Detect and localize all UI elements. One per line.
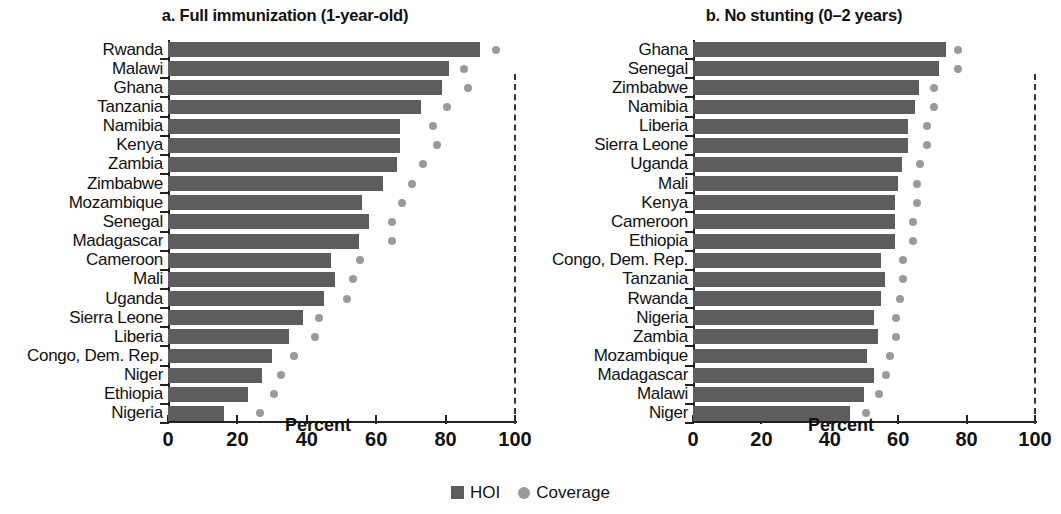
- y-tick-b-18: [685, 403, 694, 405]
- hoi-bar: [693, 253, 881, 268]
- panel-a-x-axis-title: Percent: [285, 415, 351, 436]
- coverage-dot: [913, 180, 921, 188]
- y-tick-b-5: [685, 154, 694, 156]
- category-label: Nigeria: [111, 403, 163, 423]
- panel-a-plot-area: 020406080100: [168, 40, 515, 423]
- y-tick-a-0: [160, 58, 169, 60]
- category-label: Zimbabwe: [612, 78, 688, 98]
- bar-row: [693, 291, 1035, 306]
- category-label: Malawi: [112, 59, 163, 79]
- y-tick-a-5: [160, 154, 169, 156]
- bar-row: [693, 272, 1035, 287]
- x-tick-label-a-80: 80: [434, 428, 456, 451]
- category-label: Uganda: [630, 154, 688, 174]
- hoi-bar: [693, 42, 946, 57]
- category-label: Mozambique: [594, 346, 688, 366]
- y-tick-a-6: [160, 173, 169, 175]
- panel-b-category-labels: GhanaSenegalZimbabweNamibiaLiberiaSierra…: [530, 40, 688, 423]
- y-tick-b-0: [685, 58, 694, 60]
- category-label: Congo, Dem. Rep.: [27, 346, 163, 366]
- bar-row: [168, 387, 515, 402]
- hoi-bar: [168, 387, 248, 402]
- coverage-dot: [315, 314, 323, 322]
- hoi-bar: [693, 368, 874, 383]
- y-tick-a-15: [160, 345, 169, 347]
- bar-row: [693, 119, 1035, 134]
- x-tick-label-a-0: 0: [162, 428, 173, 451]
- hoi-bar: [168, 368, 262, 383]
- hoi-bar: [168, 61, 449, 76]
- bar-row: [693, 42, 1035, 57]
- coverage-dot: [311, 333, 319, 341]
- coverage-dot: [954, 65, 962, 73]
- y-tick-a-10: [160, 250, 169, 252]
- coverage-dot: [419, 160, 427, 168]
- x-tick-label-b-80: 80: [955, 428, 977, 451]
- coverage-dot: [460, 65, 468, 73]
- coverage-dot: [343, 295, 351, 303]
- bar-row: [693, 368, 1035, 383]
- x-tick-label-b-20: 20: [750, 428, 772, 451]
- y-tick-b-10: [685, 250, 694, 252]
- hoi-bar: [168, 349, 272, 364]
- bar-row: [168, 349, 515, 364]
- y-tick-a-1: [160, 77, 169, 79]
- hoi-bar: [693, 329, 878, 344]
- hoi-bar: [693, 80, 919, 95]
- category-label: Congo, Dem. Rep.: [552, 250, 688, 270]
- category-label: Malawi: [637, 384, 688, 404]
- legend-label-hoi: HOI: [470, 483, 500, 503]
- hoi-bar: [168, 195, 362, 210]
- category-label: Niger: [124, 365, 163, 385]
- hoi-bar: [168, 80, 442, 95]
- hoi-bar: [168, 406, 224, 421]
- y-tick-b-13: [685, 307, 694, 309]
- category-label: Rwanda: [102, 40, 163, 60]
- y-tick-a-13: [160, 307, 169, 309]
- panel-b-plot-area: 020406080100: [693, 40, 1035, 423]
- y-tick-a-2: [160, 96, 169, 98]
- bar-row: [693, 387, 1035, 402]
- bar-row: [693, 157, 1035, 172]
- coverage-dot: [886, 352, 894, 360]
- bar-row: [168, 119, 515, 134]
- coverage-dot: [349, 275, 357, 283]
- coverage-dot: [923, 122, 931, 130]
- category-label: Ghana: [113, 78, 163, 98]
- x-tick-label-b-100: 100: [1018, 428, 1051, 451]
- coverage-dot: [270, 390, 278, 398]
- y-tick-a-4: [160, 135, 169, 137]
- hoi-bar: [693, 138, 908, 153]
- x-tick-label-a-60: 60: [365, 428, 387, 451]
- y-tick-a-19: [160, 422, 169, 424]
- y-tick-b-14: [685, 326, 694, 328]
- category-label: Zimbabwe: [87, 174, 163, 194]
- coverage-dot: [356, 256, 364, 264]
- coverage-dot: [398, 199, 406, 207]
- coverage-dot: [909, 237, 917, 245]
- coverage-dot: [892, 314, 900, 322]
- coverage-dot: [492, 46, 500, 54]
- hoi-bar: [693, 310, 874, 325]
- bar-row: [168, 329, 515, 344]
- y-tick-b-15: [685, 345, 694, 347]
- figure-root: a. Full immunization (1-year-old) Rwanda…: [0, 0, 1061, 514]
- y-tick-b-2: [685, 96, 694, 98]
- coverage-dot: [882, 371, 890, 379]
- hoi-bar: [168, 234, 359, 249]
- coverage-dot: [875, 390, 883, 398]
- coverage-dot: [290, 352, 298, 360]
- y-tick-a-7: [160, 192, 169, 194]
- hoi-bar: [693, 61, 939, 76]
- category-label: Madagascar: [72, 231, 163, 251]
- bar-row: [693, 253, 1035, 268]
- bar-row: [168, 291, 515, 306]
- category-label: Zambia: [108, 154, 163, 174]
- coverage-dot: [899, 275, 907, 283]
- category-label: Zambia: [633, 327, 688, 347]
- y-tick-b-7: [685, 192, 694, 194]
- hoi-bar: [168, 138, 400, 153]
- x-tick-label-a-100: 100: [498, 428, 531, 451]
- panel-b-title: b. No stunting (0–2 years): [530, 6, 1060, 25]
- coverage-dot: [429, 122, 437, 130]
